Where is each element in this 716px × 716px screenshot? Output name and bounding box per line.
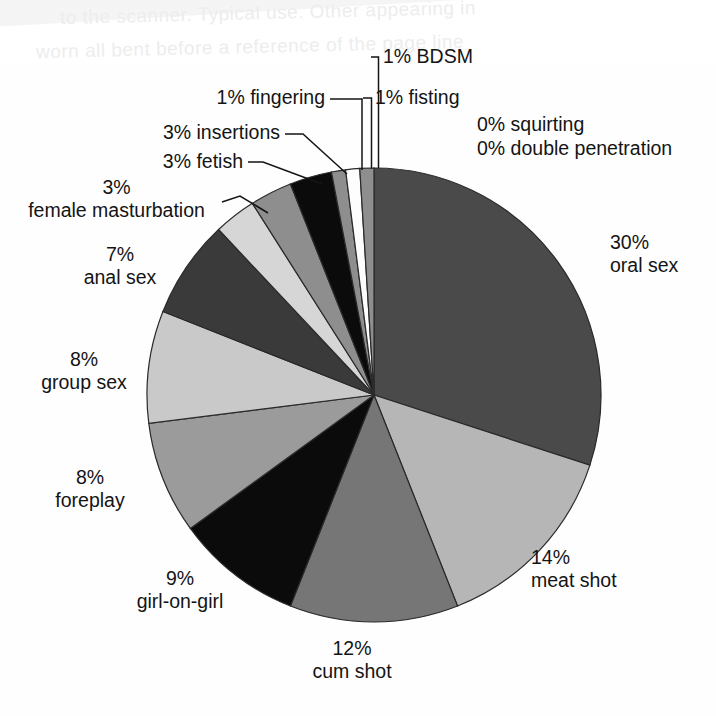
label-girl-on-girl: 9% girl-on-girl — [100, 567, 260, 613]
leader-line-insertions — [285, 134, 347, 174]
label-fetish: 3% fetish — [60, 150, 243, 173]
label-girl-on-girl-pct: 9% — [100, 567, 260, 590]
label-anal-sex: 7% anal sex — [50, 243, 190, 289]
label-female-masturbation: 3% female masturbation — [14, 176, 219, 222]
label-cum-shot-name: cum shot — [272, 660, 432, 683]
label-fisting: 1% fisting — [375, 86, 460, 109]
label-female-masturbation-pct: 3% — [14, 176, 219, 199]
label-female-masturbation-name: female masturbation — [14, 199, 219, 222]
label-foreplay-name: foreplay — [20, 489, 160, 512]
label-squirting: 0% squirting — [477, 113, 584, 136]
label-oral-sex: 30% oral sex — [610, 231, 678, 277]
label-girl-on-girl-name: girl-on-girl — [100, 590, 260, 613]
label-meat-shot-name: meat shot — [531, 569, 617, 592]
label-insertions: 3% insertions — [60, 121, 280, 144]
label-group-sex-pct: 8% — [14, 348, 154, 371]
label-group-sex-name: group sex — [14, 371, 154, 394]
pie-chart-page: to the scanner. Typical use. Other appea… — [0, 0, 716, 716]
label-meat-shot-pct: 14% — [531, 546, 617, 569]
label-cum-shot-pct: 12% — [272, 637, 432, 660]
label-foreplay-pct: 8% — [20, 466, 160, 489]
label-fingering: 1% fingering — [90, 86, 325, 109]
label-oral-sex-name: oral sex — [610, 254, 678, 277]
label-anal-sex-pct: 7% — [50, 243, 190, 266]
label-double-penetration: 0% double penetration — [477, 137, 672, 160]
label-group-sex: 8% group sex — [14, 348, 154, 394]
label-meat-shot: 14% meat shot — [531, 546, 617, 592]
leader-line-fisting — [363, 98, 372, 169]
label-bdsm: 1% BDSM — [383, 45, 473, 68]
label-anal-sex-name: anal sex — [50, 266, 190, 289]
label-foreplay: 8% foreplay — [20, 466, 160, 512]
label-cum-shot: 12% cum shot — [272, 637, 432, 683]
label-oral-sex-pct: 30% — [610, 231, 678, 254]
leader-line-fingering — [330, 99, 362, 170]
